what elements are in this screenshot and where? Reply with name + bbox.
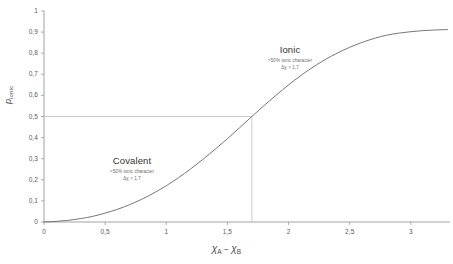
annotation-covalent-region: Covalent <50% ionic character Δχ < 1,7: [82, 155, 182, 182]
x-tick-marks: [44, 222, 411, 225]
x-tick-label: 2,5: [337, 228, 363, 235]
x-axis-title-operator: −: [224, 244, 229, 254]
annotation-covalent-heading: Covalent: [82, 155, 182, 166]
x-axis-title-subscript-a: A: [217, 248, 221, 255]
chart-figure: 00,10,20,30,40,50,60,70,80,91 00,511,522…: [0, 0, 453, 264]
y-tick-marks: [41, 11, 44, 222]
annotation-covalent-line1: <50% ionic character: [82, 168, 182, 175]
y-tick-label: 0,2: [16, 176, 38, 183]
annotation-ionic-heading: Ionic: [240, 44, 340, 55]
x-tick-label: 1,5: [214, 228, 240, 235]
x-tick-label: 1: [153, 228, 179, 235]
y-tick-label: 0,3: [16, 155, 38, 162]
x-tick-label: 2: [276, 228, 302, 235]
y-axis-title-symbol: p: [3, 99, 13, 104]
plot-canvas: [0, 0, 453, 264]
annotation-ionic-detail: >50% ionic character Δχ > 1,7: [240, 57, 340, 71]
y-tick-label: 0,1: [16, 197, 38, 204]
annotation-ionic-line1: >50% ionic character: [240, 57, 340, 64]
y-tick-label: 0,8: [16, 49, 38, 56]
annotation-covalent-detail: <50% ionic character Δχ < 1,7: [82, 168, 182, 182]
x-tick-label: 3: [398, 228, 424, 235]
annotation-covalent-line2: Δχ < 1,7: [82, 175, 182, 182]
y-axis-title: pionic: [3, 86, 14, 104]
x-axis-title-subscript-b: B: [237, 248, 241, 255]
y-tick-label: 0,9: [16, 28, 38, 35]
y-tick-label: 0,6: [16, 91, 38, 98]
y-axis-title-subscript: ionic: [8, 86, 14, 99]
y-tick-label: 1: [16, 7, 38, 14]
y-tick-label: 0,5: [16, 113, 38, 120]
annotation-ionic-region: Ionic >50% ionic character Δχ > 1,7: [240, 44, 340, 71]
annotation-ionic-line2: Δχ > 1,7: [240, 64, 340, 71]
x-tick-label: 0,5: [92, 228, 118, 235]
y-tick-label: 0,4: [16, 134, 38, 141]
y-tick-label: 0: [16, 218, 38, 225]
x-axis-title: χA − χB: [0, 243, 453, 255]
x-tick-label: 0: [31, 228, 57, 235]
y-tick-label: 0,7: [16, 70, 38, 77]
